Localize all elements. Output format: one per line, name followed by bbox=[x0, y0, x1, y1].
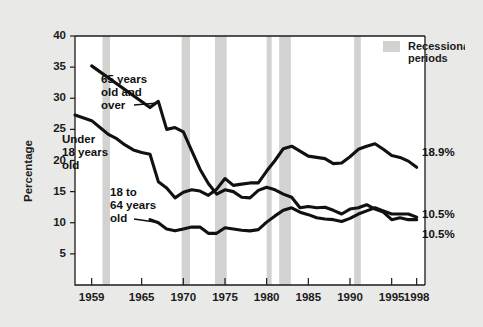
x-tick-label-1959: 1959 bbox=[79, 291, 105, 303]
recession-band-3 bbox=[267, 36, 272, 285]
x-tick-label-1965: 1965 bbox=[129, 291, 155, 303]
legend-label-line2: periods bbox=[408, 52, 448, 64]
annotation-age1864-line3: old bbox=[110, 212, 127, 224]
annotation-under18-line1: Under bbox=[62, 133, 96, 145]
figure-canvas: 403530252015105 195919651970197519801985… bbox=[0, 0, 483, 327]
x-tick-label-1980: 1980 bbox=[254, 291, 280, 303]
y-tick-label-15: 15 bbox=[53, 185, 66, 197]
y-tick-label-30: 30 bbox=[53, 91, 66, 103]
x-tick-label-1995: 1995 bbox=[379, 291, 405, 303]
end-label-age-18-64: 10.5% bbox=[422, 228, 455, 240]
recessionary-periods-swatch bbox=[383, 41, 400, 52]
x-tick-label-1990: 1990 bbox=[337, 291, 363, 303]
recession-band-5 bbox=[354, 36, 361, 285]
x-tick-labels-group: 195919651970197519801985199019951998 bbox=[79, 291, 430, 303]
end-label-under-18: 18.9% bbox=[422, 146, 455, 158]
x-tick-label-1975: 1975 bbox=[212, 291, 238, 303]
chart-plate: 403530252015105 195919651970197519801985… bbox=[22, 16, 465, 308]
y-tick-label-35: 35 bbox=[53, 60, 66, 72]
recession-band-1 bbox=[182, 36, 190, 285]
y-tick-label-5: 5 bbox=[60, 247, 67, 259]
poverty-rate-line-chart: 403530252015105 195919651970197519801985… bbox=[22, 16, 465, 308]
annotation-over65-line2: old and bbox=[101, 86, 142, 98]
recession-band-2 bbox=[215, 36, 227, 285]
y-tick-label-40: 40 bbox=[53, 29, 66, 41]
annotation-over65-line3: over bbox=[101, 99, 126, 111]
annotation-under18-line3: old bbox=[62, 159, 79, 171]
x-tick-label-1970: 1970 bbox=[171, 291, 197, 303]
x-tick-label-1985: 1985 bbox=[296, 291, 322, 303]
end-label-over-65: 10.5% bbox=[422, 208, 455, 220]
recession-band-4 bbox=[279, 36, 291, 285]
annotation-over65-line1: 65 years bbox=[101, 73, 147, 85]
annotation-age1864-line1: 18 to bbox=[110, 186, 137, 198]
annotation-age1864-line2: 64 years bbox=[110, 199, 156, 211]
x-tick-label-1998: 1998 bbox=[404, 291, 430, 303]
annotation-under18-line2: 18 years bbox=[62, 146, 108, 158]
legend-label-line1: Recessionary bbox=[408, 40, 465, 52]
y-tick-label-10: 10 bbox=[53, 216, 66, 228]
y-axis-title: Percentage bbox=[22, 140, 34, 202]
